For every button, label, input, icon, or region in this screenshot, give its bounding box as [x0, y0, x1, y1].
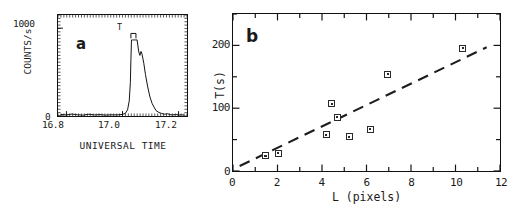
panel-b-data-point	[367, 126, 374, 133]
panel-b-plot-canvas	[233, 14, 500, 171]
panel-b-data-point	[275, 150, 282, 157]
panel-b-data-point	[384, 71, 391, 78]
panel-b-xtick-label-6: 6	[355, 176, 379, 189]
panel-b-xtick-label-2: 2	[265, 176, 289, 189]
panel-b-data-point	[328, 100, 335, 107]
panel-a-plot-frame: a	[57, 14, 188, 117]
panel-a-burst-bracket-layer	[58, 15, 187, 116]
panel-b-ytick-label-100: 100	[200, 101, 230, 114]
panel-b-data-point	[346, 133, 353, 140]
panel-b-data-point	[334, 114, 341, 121]
panel-b-letter: b	[246, 26, 258, 46]
panel-a-xtick-label-2: 17.2	[155, 119, 177, 130]
panel-a: COUNTS/s 1000 0 a T 16.8 17.0 17.2 UNIVE…	[0, 0, 205, 216]
panel-b-trendline	[240, 47, 487, 166]
panel-b-data-point	[323, 131, 330, 138]
panel-a-ytick-label-1000: 1000	[13, 18, 35, 29]
panel-b-xtick-label-0: 0	[220, 176, 244, 189]
figure-root: COUNTS/s 1000 0 a T 16.8 17.0 17.2 UNIVE…	[0, 0, 523, 216]
panel-b-xtick-label-12: 12	[489, 176, 513, 189]
panel-a-xtick-label-1: 17.0	[98, 119, 120, 130]
panel-b-x-axis-title: L (pixels)	[232, 190, 501, 204]
panel-b-ytick-label-200: 200	[200, 38, 230, 51]
panel-b: T(s) 0100200 b 024681012 L (pixels)	[200, 0, 523, 216]
panel-a-letter: a	[76, 35, 86, 53]
panel-b-tick-marks	[233, 14, 500, 171]
panel-a-x-axis-title: UNIVERSAL TIME	[28, 140, 218, 151]
panel-b-data-point	[459, 45, 466, 52]
panel-b-data-point	[262, 152, 269, 159]
panel-b-xtick-label-10: 10	[444, 176, 468, 189]
panel-b-plot-frame	[232, 13, 501, 172]
panel-b-xtick-label-8: 8	[399, 176, 423, 189]
panel-a-burst-bracket	[131, 33, 136, 38]
panel-a-peak-marker-label: T	[117, 22, 122, 32]
panel-a-xtick-label-0: 16.8	[42, 119, 64, 130]
panel-b-xtick-label-4: 4	[310, 176, 334, 189]
